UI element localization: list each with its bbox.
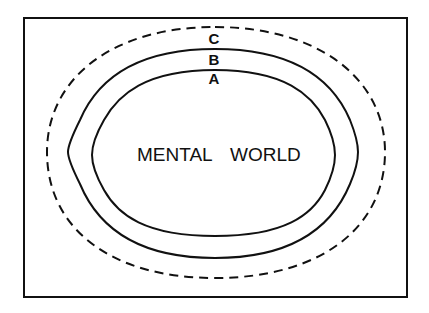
label-c: C (209, 30, 220, 47)
title-mental: MENTAL (137, 144, 213, 165)
label-b: B (209, 51, 220, 68)
mental-world-diagram: C B A MENTAL WORLD (0, 0, 429, 313)
title-world: WORLD (230, 144, 301, 165)
label-a: A (209, 70, 220, 87)
